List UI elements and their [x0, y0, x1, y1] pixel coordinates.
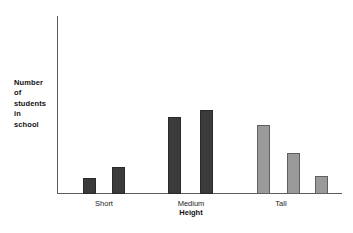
bar — [200, 110, 213, 194]
x-axis-title: Height — [179, 208, 202, 217]
x-axis-tick-label: Tall — [275, 199, 286, 208]
bar — [83, 178, 96, 194]
bar — [315, 176, 328, 194]
bar — [257, 125, 270, 194]
bar — [287, 153, 300, 194]
plot-area — [0, 0, 353, 233]
bar — [168, 117, 181, 194]
x-axis-tick-label: Short — [95, 199, 113, 208]
x-axis-tick-label: Medium — [178, 199, 205, 208]
bar — [112, 167, 125, 194]
bar-chart: Number of students in school ShortMedium… — [0, 0, 353, 233]
